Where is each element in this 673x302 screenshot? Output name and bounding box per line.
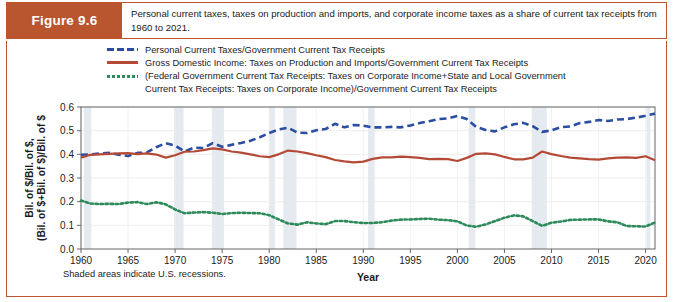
x-axis-tick-label: 2020 [634, 255, 657, 266]
figure-body: Personal Current Taxes/Government Curren… [6, 41, 667, 297]
y-axis-tick-label: 0.4 [60, 149, 74, 160]
y-axis-tick-label: 0.0 [60, 244, 74, 255]
chart-legend: Personal Current Taxes/Government Curren… [107, 44, 652, 95]
x-axis-tick-label: 2005 [493, 255, 516, 266]
x-axis-tick-label: 1960 [70, 255, 93, 266]
x-axis-tick-label: 1990 [352, 255, 375, 266]
figure-card: Figure 9.6 Personal current taxes, taxes… [0, 0, 673, 302]
x-axis-tick-label: 1965 [117, 255, 140, 266]
y-axis-tick-label: 0.1 [60, 220, 74, 231]
x-axis-tick-label: 1995 [399, 255, 422, 266]
chart-plot-area: 0.00.10.20.30.40.50.6 196019651970197519… [7, 99, 668, 297]
chart-footnote: Shaded areas indicate U.S. recessions. [63, 269, 226, 279]
y-axis-label-line: Bil. of $/Bil. of $, [24, 138, 35, 217]
legend-item-personal-current-taxes[interactable]: Personal Current Taxes/Government Curren… [107, 44, 652, 57]
legend-item-label: Gross Domestic Income: Taxes on Producti… [145, 57, 528, 69]
x-axis-tick-label: 2010 [540, 255, 563, 266]
y-axis-label-group: Bil. of $/Bil. of $,(Bil. of $+Bil. of $… [24, 115, 47, 241]
legend-item-corporate-income-taxes[interactable]: (Federal Government Current Tax Receipts… [107, 70, 652, 83]
legend-item-taxes-production-imports[interactable]: Gross Domestic Income: Taxes on Producti… [107, 57, 652, 70]
legend-item-label: Personal Current Taxes/Government Curren… [145, 44, 385, 56]
y-axis-label-line: (Bil. of $+Bil. of $)/Bil. of $ [36, 115, 47, 241]
x-axis-tick-label: 1975 [211, 255, 234, 266]
figure-caption: Personal current taxes, taxes on product… [122, 3, 666, 38]
y-axis-tick-label: 0.2 [60, 196, 74, 207]
x-axis-ticks-group: 1960196519701975198019851990199520002005… [70, 249, 657, 266]
legend-item-label-continued: Current Tax Receipts: Taxes on Corporate… [145, 83, 652, 95]
x-axis-tick-label: 1985 [305, 255, 328, 266]
x-axis-label: Year [357, 271, 379, 283]
y-axis-tick-label: 0.5 [60, 125, 74, 136]
legend-item-label: (Federal Government Current Tax Receipts… [145, 70, 566, 82]
x-axis-tick-label: 2000 [446, 255, 469, 266]
dotted-line-swatch-icon [107, 70, 138, 81]
line-chart-svg: 0.00.10.20.30.40.50.6 196019651970197519… [7, 99, 668, 297]
x-axis-tick-label: 2015 [587, 255, 610, 266]
y-axis-tick-label: 0.3 [60, 173, 74, 184]
solid-line-swatch-icon [107, 57, 138, 68]
y-axis-tick-label: 0.6 [60, 102, 74, 113]
dashed-line-swatch-icon [107, 44, 138, 55]
figure-header: Figure 9.6 Personal current taxes, taxes… [6, 2, 667, 39]
figure-number-badge: Figure 9.6 [7, 3, 122, 38]
y-axis-ticks-group: 0.00.10.20.30.40.50.6 [60, 102, 81, 255]
x-axis-tick-label: 1970 [164, 255, 187, 266]
x-axis-tick-label: 1980 [258, 255, 281, 266]
